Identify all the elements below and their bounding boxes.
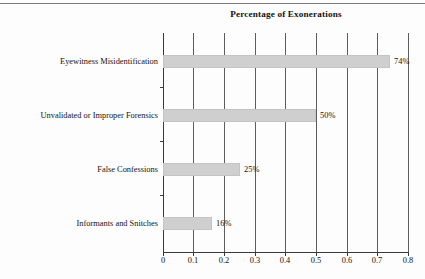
top-divider xyxy=(0,3,425,4)
chart-title: Percentage of Exonerations xyxy=(163,9,409,19)
y-axis-label: Eyewitness Misidentification xyxy=(60,55,158,68)
y-axis-label: Informants and Snitches xyxy=(77,217,158,230)
x-axis-tick-label: 0.2 xyxy=(219,256,229,265)
bar-value-label: 50% xyxy=(320,109,335,122)
x-axis-tick-label: 0.6 xyxy=(342,256,352,265)
y-axis-labels: Eyewitness Misidentification Unvalidated… xyxy=(0,33,158,252)
bar[interactable] xyxy=(163,109,316,122)
x-axis-tick-label: 0.3 xyxy=(250,256,260,265)
bar[interactable] xyxy=(163,217,212,230)
y-axis-label: Unvalidated or Improper Forensics xyxy=(41,109,158,122)
bar[interactable] xyxy=(163,55,390,68)
plot-area: 74% 50% 25% 16% xyxy=(163,33,408,252)
x-axis-tick-label: 0 xyxy=(161,256,165,265)
x-axis-tick-label: 0.7 xyxy=(372,256,382,265)
x-axis-tick-label: 0.5 xyxy=(311,256,321,265)
y-axis-tick xyxy=(160,195,163,196)
bar-value-label: 16% xyxy=(216,217,231,230)
x-axis-tick-label: 0.1 xyxy=(188,256,198,265)
x-axis-tick-label: 0.8 xyxy=(403,256,413,265)
bar-value-label: 25% xyxy=(244,163,259,176)
x-axis-tick-label: 0.4 xyxy=(280,256,290,265)
bar-value-label: 74% xyxy=(394,55,409,68)
x-axis-labels: 0 0.1 0.2 0.3 0.4 0.5 0.6 0.7 0.8 xyxy=(163,256,408,270)
y-axis-label: False Confessions xyxy=(97,163,158,176)
bar[interactable] xyxy=(163,163,240,176)
y-axis-tick xyxy=(160,87,163,88)
chart-figure: Percentage of Exonerations Eyewitness Mi… xyxy=(0,0,425,279)
y-axis-tick xyxy=(160,141,163,142)
